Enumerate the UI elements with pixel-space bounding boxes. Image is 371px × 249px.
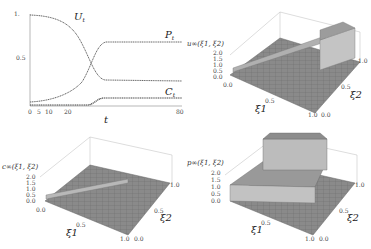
- x-tick-0: 0: [28, 108, 32, 115]
- svg-text:ξ2: ξ2: [350, 89, 362, 100]
- u-inf-3d-plot: u∞(ξ1, ξ2) 2.0 1.5 1.0 0.5 0.0 0.0 0.5 1…: [185, 0, 371, 125]
- z-axis-label: p∞(ξ1, ξ2): [187, 159, 224, 167]
- svg-text:1.0: 1.0: [308, 111, 318, 118]
- y-tick-0.5: 0.5: [16, 54, 26, 61]
- svg-text:1.0: 1.0: [305, 235, 315, 242]
- svg-text:0.0: 0.0: [319, 235, 329, 242]
- y-tick-1: 1.: [14, 10, 20, 17]
- svg-text:1.0: 1.0: [211, 183, 221, 190]
- svg-text:0.0: 0.0: [134, 235, 144, 242]
- floor-surface: [45, 165, 170, 235]
- svg-text:ξ1: ξ1: [251, 224, 263, 235]
- svg-text:0.0: 0.0: [321, 111, 331, 118]
- svg-text:0.0: 0.0: [211, 197, 221, 204]
- line-chart: 1. 0.5 0 5 10 20 80 t Ut Pt Ct: [0, 0, 185, 125]
- svg-text:ξ2: ξ2: [160, 212, 172, 223]
- curve-U: [30, 15, 182, 81]
- svg-text:0.0: 0.0: [223, 81, 233, 88]
- x-tick-10: 10: [45, 108, 53, 115]
- x-tick-80: 80: [176, 108, 184, 115]
- svg-text:1.0: 1.0: [170, 181, 180, 188]
- svg-text:ξ1: ξ1: [66, 227, 78, 238]
- u-inf-panel: u∞(ξ1, ξ2) 2.0 1.5 1.0 0.5 0.0 0.0 0.5 1…: [185, 0, 371, 125]
- svg-text:1.0: 1.0: [120, 235, 130, 242]
- c-inf-3d-plot: c∞(ξ1, ξ2) 2.0 1.5 1.0 0.5 0.0 0.0 0.5 1…: [0, 125, 185, 249]
- svg-text:2.0: 2.0: [211, 169, 221, 176]
- curve-C: [30, 98, 182, 105]
- curve-P: [30, 42, 182, 102]
- svg-text:1.0: 1.0: [355, 181, 365, 188]
- z-axis-label: u∞(ξ1, ξ2): [187, 40, 224, 48]
- x-axis-label: t: [104, 114, 109, 125]
- p-inf-panel: p∞(ξ1, ξ2) 2.0 1.5 1.0 0.5 0.0 0.5 1.0 0…: [185, 125, 371, 249]
- z-axis-label: c∞(ξ1, ξ2): [2, 163, 39, 171]
- svg-text:ξ2: ξ2: [347, 212, 359, 223]
- svg-text:0.5: 0.5: [211, 190, 221, 197]
- x-tick-20: 20: [64, 108, 72, 115]
- svg-text:0.0: 0.0: [36, 206, 46, 213]
- label-C: Ct: [165, 86, 176, 98]
- svg-text:0.0: 0.0: [213, 73, 223, 80]
- svg-text:ξ1: ξ1: [255, 103, 267, 114]
- x-tick-5: 5: [37, 108, 41, 115]
- c-inf-panel: c∞(ξ1, ξ2) 2.0 1.5 1.0 0.5 0.0 0.0 0.5 1…: [0, 125, 185, 249]
- p-inf-3d-plot: p∞(ξ1, ξ2) 2.0 1.5 1.0 0.5 0.0 0.5 1.0 0…: [185, 125, 371, 249]
- label-P: Pt: [164, 29, 175, 41]
- line-chart-panel: 1. 0.5 0 5 10 20 80 t Ut Pt Ct: [0, 0, 185, 125]
- svg-text:1.5: 1.5: [211, 176, 221, 183]
- label-U: Ut: [74, 11, 85, 23]
- svg-text:1.0: 1.0: [358, 57, 368, 64]
- svg-text:0.0: 0.0: [26, 197, 36, 204]
